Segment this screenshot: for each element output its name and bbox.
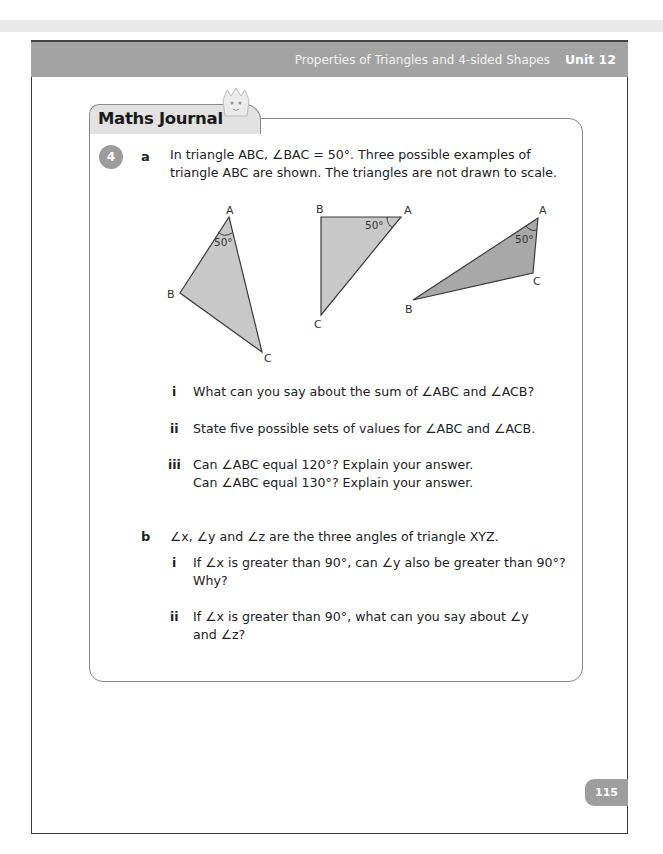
t1-vertex-a: A [226, 204, 234, 217]
part-b-ii-label: ii [170, 609, 179, 624]
t1-vertex-c: C [264, 352, 272, 365]
t1-angle-label: 50° [214, 236, 233, 248]
part-a-iii-label: iii [168, 457, 181, 472]
t3-vertex-c: C [533, 275, 541, 288]
t3-vertex-b: B [405, 303, 413, 316]
t1-vertex-b: B [167, 288, 175, 301]
part-a-i-text: What can you say about the sum of ∠ABC a… [193, 383, 534, 401]
part-b-i-line1: If ∠x is greater than 90°, can ∠y also b… [193, 554, 566, 572]
t3-vertex-a: A [539, 204, 547, 217]
part-b-i-label: i [172, 555, 176, 570]
part-b-ii-line1: If ∠x is greater than 90°, what can you … [193, 608, 529, 626]
triangle-1: A B C 50° [167, 204, 272, 365]
part-a-ii-label: ii [170, 421, 179, 436]
part-a-iii-line2: Can ∠ABC equal 130°? Explain your answer… [193, 474, 473, 492]
part-b-intro: ∠x, ∠y and ∠z are the three angles of tr… [170, 528, 499, 546]
t2-angle-label: 50° [365, 219, 384, 231]
part-b-i-line2: Why? [193, 572, 228, 590]
triangle-3: A B C 50° [405, 204, 547, 316]
t2-vertex-c: C [314, 318, 322, 331]
part-a-ii-text: State five possible sets of values for ∠… [193, 420, 535, 438]
part-a-iii-line1: Can ∠ABC equal 120°? Explain your answer… [193, 456, 473, 474]
t2-vertex-a: A [404, 204, 412, 217]
triangle-2: B A C 50° [314, 203, 412, 331]
page-number: 115 [585, 779, 628, 806]
part-a-i-label: i [172, 384, 176, 399]
part-b-ii-line2: and ∠z? [193, 626, 245, 644]
t2-vertex-b: B [316, 203, 324, 216]
part-b-label: b [141, 529, 150, 544]
t3-angle-label: 50° [515, 233, 534, 245]
